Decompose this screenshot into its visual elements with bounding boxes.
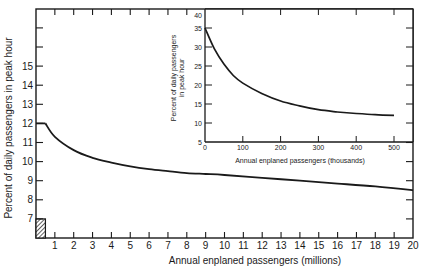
inset-plot: 0100200300400500510152025303540 — [194, 9, 413, 151]
main-x-tick-label: 8 — [184, 240, 190, 251]
main-y-tick-label: 15 — [22, 61, 34, 72]
main-x-tick-label: 18 — [370, 240, 382, 251]
main-y-tick-label: 12 — [22, 118, 34, 129]
main-x-tick-label: 7 — [165, 240, 171, 251]
inset-y-tick-label: 40 — [194, 12, 202, 19]
main-x-tick-label: 6 — [146, 240, 152, 251]
main-y-tick-label: 10 — [22, 156, 34, 167]
inset-x-tick-label: 300 — [313, 144, 325, 151]
inset-y-tick-label: 15 — [194, 101, 202, 108]
main-y-tick-label: 8 — [27, 194, 33, 205]
main-y-tick-label: 14 — [22, 80, 34, 91]
main-x-tick-label: 5 — [127, 240, 133, 251]
main-x-tick-label: 15 — [313, 240, 325, 251]
inset-y-tick-label: 10 — [194, 120, 202, 127]
main-x-tick-label: 14 — [294, 240, 306, 251]
main-y-tick-label: 7 — [27, 213, 33, 224]
inset-x-tick-label: 400 — [350, 144, 362, 151]
main-x-tick-label: 12 — [257, 240, 269, 251]
main-x-axis-title: Annual enplaned passengers (millions) — [169, 255, 341, 266]
inset-x-tick-label: 100 — [237, 144, 249, 151]
inset-y-tick-label: 5 — [198, 139, 202, 146]
main-x-tick-label: 16 — [332, 240, 344, 251]
inset-y-tick-label: 35 — [194, 25, 202, 32]
inset-x-tick-label: 500 — [388, 144, 400, 151]
main-x-tick-label: 1 — [52, 240, 58, 251]
chart-canvas: 1234567891011121314151617181920789101112… — [0, 0, 426, 271]
main-x-tick-label: 9 — [203, 240, 209, 251]
inset-y-tick-label: 25 — [194, 63, 202, 70]
main-x-tick-label: 4 — [109, 240, 115, 251]
inset-y-tick-label: 30 — [194, 44, 202, 51]
inset-x-axis-title: Annual enplaned passengers (thousands) — [235, 157, 365, 165]
main-x-tick-label: 2 — [71, 240, 77, 251]
inset-y-axis-title-line1: Percent of daily passengers — [170, 34, 178, 121]
main-x-tick-label: 20 — [407, 240, 419, 251]
main-x-tick-label: 13 — [275, 240, 287, 251]
inset-y-axis-title-line2: in peak hour — [178, 58, 186, 97]
main-x-tick-label: 3 — [90, 240, 96, 251]
inset-x-tick-label: 200 — [275, 144, 287, 151]
hatched-region — [36, 219, 45, 238]
main-x-tick-label: 11 — [238, 240, 249, 251]
main-y-tick-label: 11 — [23, 137, 34, 148]
main-x-tick-label: 19 — [389, 240, 401, 251]
main-y-tick-label: 9 — [27, 175, 33, 186]
main-x-tick-label: 10 — [219, 240, 231, 251]
main-y-axis-title: Percent of daily passengers in peak hour — [3, 37, 14, 219]
inset-y-tick-label: 20 — [194, 82, 202, 89]
main-y-tick-label: 13 — [22, 99, 34, 110]
inset-x-tick-label: 0 — [203, 144, 207, 151]
main-x-tick-label: 17 — [351, 240, 363, 251]
